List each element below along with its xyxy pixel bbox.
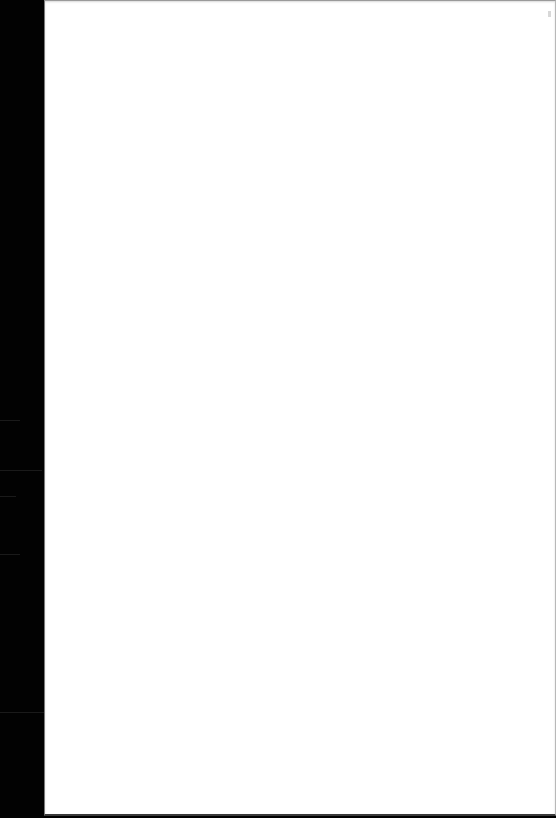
photo-frame (0, 0, 556, 818)
black-margin-strip (0, 0, 44, 818)
blank-paper-page (44, 0, 556, 816)
page-corner-mark (548, 11, 551, 17)
strip-artifact (0, 496, 16, 497)
strip-artifact (0, 712, 44, 713)
strip-artifact (0, 470, 42, 471)
strip-artifact (0, 420, 20, 421)
strip-artifact (0, 554, 20, 555)
